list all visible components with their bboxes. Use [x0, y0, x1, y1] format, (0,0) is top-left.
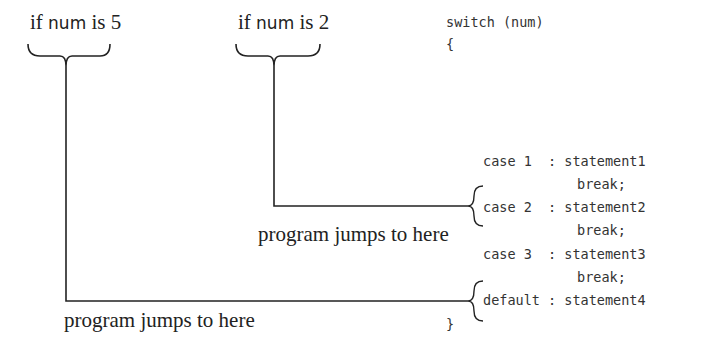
case-3-line: case 3 : statement3: [483, 246, 646, 262]
jump-label-default: program jumps to here: [64, 308, 255, 333]
switch-statement: switch (num): [446, 14, 544, 30]
close-brace: }: [446, 316, 454, 332]
open-brace: {: [446, 36, 454, 52]
case-2-line: case 2 : statement2: [483, 199, 646, 215]
jump-label-case-2: program jumps to here: [258, 222, 449, 247]
condition-label-num-5: if num is 5: [30, 10, 121, 35]
default-line: default : statement4: [483, 292, 646, 308]
case-2-break: break;: [577, 222, 626, 238]
case-3-break: break;: [577, 269, 626, 285]
case-1-break: break;: [577, 176, 626, 192]
case-1-line: case 1 : statement1: [483, 153, 646, 169]
condition-label-num-2: if num is 2: [238, 10, 329, 35]
